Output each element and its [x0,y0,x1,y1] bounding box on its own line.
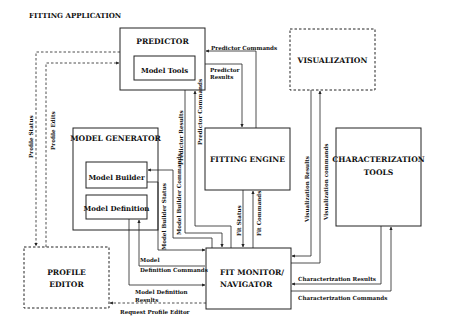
characterization-tools-label-1: CHARACTERIZATION [332,155,424,164]
svg-text:Fit Commands: Fit Commands [256,191,262,236]
svg-text:Profile Edits: Profile Edits [50,111,56,150]
edge-characterization-commands: Characterization Commands [291,227,391,301]
svg-text:Request Profile Editor: Request Profile Editor [120,309,190,316]
diagram-title: FITTING APPLICATION [29,11,122,20]
model-tools-label: Model Tools [141,66,188,75]
edge-predictor-commands-h: Predictor Commands [206,45,277,128]
fit-monitor-label-1: FIT MONITOR/ [220,268,284,277]
svg-text:Visualization commands: Visualization commands [323,144,329,221]
fitting-application-diagram: FITTING APPLICATION PREDICTOR Model Tool… [0,0,449,326]
characterization-tools-label-2: TOOLS [364,168,394,177]
visualization-label: VISUALIZATION [297,56,368,65]
visualization-box: VISUALIZATION [290,29,375,90]
fitting-engine-label: FITTING ENGINE [210,155,285,164]
edge-predictor-results-h: Predictor Results [205,64,242,127]
svg-text:Definition Commands: Definition Commands [140,267,208,273]
svg-text:Predictor Commands: Predictor Commands [197,79,203,145]
svg-text:Results: Results [210,74,233,80]
edge-request-profile-editor: Request Profile Editor [110,303,206,316]
model-definition-label: Model Definition [84,204,150,213]
characterization-tools-box: CHARACTERIZATION TOOLS [332,128,424,226]
edge-characterization-results: Characterization Results [292,226,381,284]
predictor-label: PREDICTOR [136,37,189,46]
svg-text:Predictor: Predictor [210,67,239,73]
svg-text:Predictor Commands: Predictor Commands [211,45,277,51]
model-definition-box: Model Definition [84,195,150,219]
svg-text:Model Builder Commands: Model Builder Commands [176,153,182,235]
edge-visualization-commands: Visualization commands [291,91,329,263]
fitting-engine-box: FITTING ENGINE [205,128,290,190]
svg-text:Profile Status: Profile Status [28,115,34,158]
svg-text:Visualization Results: Visualization Results [304,156,310,223]
model-builder-box: Model Builder [86,162,147,188]
svg-text:Model Builder Status: Model Builder Status [161,183,167,250]
profile-editor-label-1: PROFILE [47,268,86,277]
edge-fit-status: Fit Status [236,190,243,247]
svg-text:Model: Model [140,257,160,263]
fit-monitor-navigator-box: FIT MONITOR/ NAVIGATOR [206,248,291,309]
edge-fit-commands: Fit Commands [253,191,262,248]
svg-text:Characterization Results: Characterization Results [298,276,376,282]
svg-text:Results: Results [135,297,158,303]
profile-editor-box: PROFILE EDITOR [24,247,109,308]
profile-editor-label-2: EDITOR [49,280,84,289]
model-generator-label: MODEL GENERATOR [70,134,161,143]
svg-text:Fit Status: Fit Status [236,205,242,236]
svg-text:Characterization Commands: Characterization Commands [298,295,387,301]
edge-visualization-results: Visualization Results [292,90,311,256]
fit-monitor-label-2: NAVIGATOR [220,280,273,289]
model-builder-label: Model Builder [88,173,145,182]
svg-text:Model Definition: Model Definition [135,289,188,295]
model-tools-box: Model Tools [134,56,195,80]
